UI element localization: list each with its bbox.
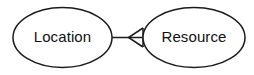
er-diagram-svg: Location Resource bbox=[0, 0, 254, 75]
er-diagram-canvas: Location Resource bbox=[0, 0, 254, 75]
entity-label-resource: Resource bbox=[162, 28, 227, 45]
entity-label-location: Location bbox=[34, 28, 92, 45]
